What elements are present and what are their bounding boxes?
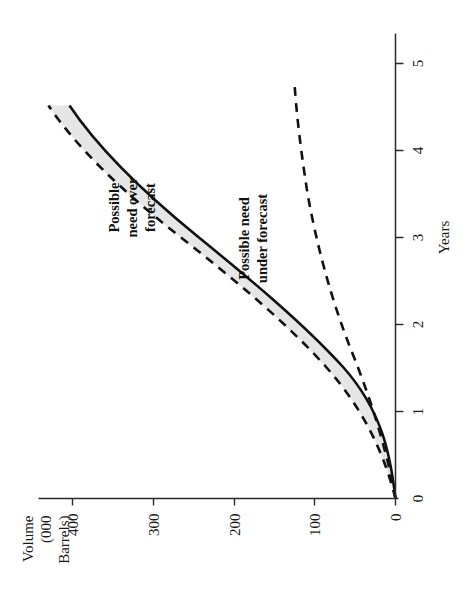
x-tick-label-1: 1: [409, 407, 425, 415]
chart-rotated-canvas: 0 100 200 300 400 Volume (000 Barrels) 0…: [0, 0, 468, 593]
chart-figure: 0 100 200 300 400 Volume (000 Barrels) 0…: [0, 0, 468, 593]
y-axis-title-line-1: Volume: [19, 515, 35, 562]
y-axis-title-line-2: (000: [37, 515, 54, 543]
y-tick-label-200: 200: [226, 513, 242, 536]
x-tick-label-4: 4: [409, 146, 425, 154]
y-tick-label-300: 300: [145, 513, 161, 536]
x-tick-label-5: 5: [409, 59, 425, 67]
shaded-band-over-forecast: [48, 105, 395, 498]
x-tick-label-2: 2: [409, 320, 425, 328]
annotation-under-forecast-line-2: under forecast: [253, 193, 269, 282]
x-tick-label-3: 3: [409, 233, 425, 241]
annotation-over-forecast-line-3: forecast: [141, 182, 157, 231]
y-tick-label-100: 100: [306, 513, 322, 536]
forecast-area-chart: 0 100 200 300 400 Volume (000 Barrels) 0…: [0, 0, 468, 593]
x-tick-label-0: 0: [409, 494, 425, 502]
annotation-under-forecast-line-1: Possible need: [235, 197, 251, 280]
annotation-over-forecast-line-2: need over: [123, 176, 139, 237]
y-tick-label-0: 0: [387, 513, 403, 521]
x-axis-title: Years: [435, 220, 451, 254]
forecast-solid-curve: [69, 105, 395, 498]
y-axis-title-line-3: Barrels): [55, 515, 72, 563]
annotation-over-forecast-line-1: Possible: [105, 181, 121, 232]
lower-bound-dashed-curve: [294, 83, 395, 498]
